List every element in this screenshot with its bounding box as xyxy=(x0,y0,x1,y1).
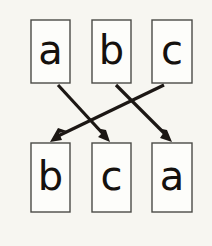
arrow-b-to-a-line xyxy=(116,85,167,136)
bottom-cell-2-label: a xyxy=(160,153,185,199)
top-cell-2[interactable]: c xyxy=(152,20,192,83)
bottom-cell-0[interactable]: b xyxy=(31,143,70,212)
top-cell-1[interactable]: b xyxy=(92,20,131,83)
mapping-arrows xyxy=(50,85,172,142)
top-cell-0[interactable]: a xyxy=(31,20,70,83)
arrow-a-to-c-line xyxy=(58,85,105,136)
bottom-cell-1[interactable]: c xyxy=(92,143,131,212)
codomain-row: b c a xyxy=(31,143,192,212)
bottom-cell-2[interactable]: a xyxy=(152,143,192,212)
top-cell-0-label: a xyxy=(38,27,63,73)
domain-row: a b c xyxy=(31,20,192,83)
top-cell-1-label: b xyxy=(99,27,124,73)
permutation-diagram: a b c b c a xyxy=(0,0,212,246)
arrow-c-to-b-line xyxy=(56,85,164,137)
bottom-cell-0-label: b xyxy=(38,153,63,199)
top-cell-2-label: c xyxy=(161,27,183,73)
arrow-c-to-b-head xyxy=(50,128,67,142)
bottom-cell-1-label: c xyxy=(101,153,123,199)
diagram-canvas: a b c b c a xyxy=(0,0,212,246)
